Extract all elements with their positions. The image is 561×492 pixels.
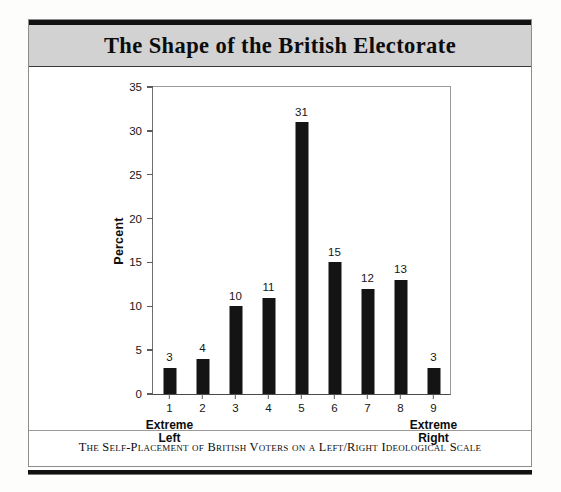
x-axis-tick-mark [334, 394, 335, 399]
figure-caption: The Self-Placement of British Voters on … [29, 440, 531, 455]
y-axis-tick: 25 [120, 169, 153, 181]
x-axis-tick: 5 [298, 394, 304, 414]
x-axis-tick: 1 [166, 394, 172, 414]
x-axis-tick-label: 8 [397, 402, 403, 414]
bar: 4 [196, 343, 209, 394]
y-axis-tick-mark [147, 349, 153, 350]
x-axis-tick: 9 [430, 394, 436, 414]
x-axis-tick-label: 3 [232, 402, 238, 414]
y-axis-tick-label: 0 [120, 388, 142, 400]
y-axis-tick-mark [147, 218, 153, 219]
x-axis-tick-label: 6 [331, 402, 337, 414]
bar-rect [394, 280, 407, 394]
x-axis-tick: 4 [265, 394, 271, 414]
x-axis-tick-mark [169, 394, 170, 399]
x-axis-tick-mark [367, 394, 368, 399]
y-axis-tick: 0 [120, 388, 153, 400]
caption-divider [29, 430, 531, 431]
x-axis-tick-label: 7 [364, 402, 370, 414]
y-axis-tick: 30 [120, 125, 153, 137]
y-axis-tick: 10 [120, 300, 153, 312]
bar: 31 [295, 107, 308, 394]
figure-frame: The Shape of the British Electorate Perc… [28, 19, 532, 467]
x-axis-tick-mark [301, 394, 302, 399]
bar-rect [361, 289, 374, 394]
y-axis-tick-mark [147, 306, 153, 307]
y-axis-tick: 5 [120, 344, 153, 356]
page-title: The Shape of the British Electorate [104, 33, 456, 59]
bar-value-label: 12 [361, 273, 374, 285]
bar: 11 [262, 282, 275, 394]
y-axis-tick: 35 [120, 81, 153, 93]
bottom-rule [28, 470, 532, 475]
x-axis-tick: 2 [199, 394, 205, 414]
bar: 13 [394, 264, 407, 394]
x-axis-tick-mark [268, 394, 269, 399]
y-axis-tick-label: 30 [120, 125, 142, 137]
x-axis-tick-label: 1 [166, 402, 172, 414]
x-axis-tick-label: 2 [199, 402, 205, 414]
bar-rect [163, 368, 176, 394]
bar-value-label: 3 [430, 352, 436, 364]
bar-value-label: 3 [166, 352, 172, 364]
x-axis-tick-mark [400, 394, 401, 399]
bar-value-label: 13 [394, 264, 407, 276]
bar-value-label: 11 [263, 282, 275, 294]
y-axis-tick-label: 35 [120, 81, 142, 93]
bar: 10 [229, 291, 242, 394]
y-axis-tick-mark [147, 86, 153, 87]
y-axis-tick: 15 [120, 256, 153, 268]
x-axis-tick-mark [433, 394, 434, 399]
x-axis-tick-mark [235, 394, 236, 399]
bar-value-label: 31 [295, 107, 308, 119]
chart-area: Percent 05101520253035 341011311512133 1… [29, 67, 531, 466]
x-axis-tick: 8 [397, 394, 403, 414]
bar-value-label: 15 [328, 247, 341, 259]
y-axis-tick-mark [147, 393, 153, 394]
bar: 12 [361, 273, 374, 394]
x-axis-tick: 7 [364, 394, 370, 414]
y-axis-tick-mark [147, 130, 153, 131]
bar-rect [427, 368, 440, 394]
bar-value-label: 4 [199, 343, 205, 355]
bar: 15 [328, 247, 341, 394]
bar-rect [262, 298, 275, 394]
y-axis-tick-label: 25 [120, 169, 142, 181]
bar-rect [229, 306, 242, 394]
x-axis-tick-label: 5 [298, 402, 304, 414]
bar-rect [295, 122, 308, 394]
y-axis-tick-label: 15 [120, 256, 142, 268]
bar-rect [328, 262, 341, 394]
bar: 3 [163, 352, 176, 394]
y-axis-tick-label: 20 [120, 213, 142, 225]
bar-value-label: 10 [229, 291, 242, 303]
x-axis-tick-mark [202, 394, 203, 399]
y-axis-tick: 20 [120, 213, 153, 225]
y-axis-tick-mark [147, 174, 153, 175]
plot-area: Percent 05101520253035 341011311512133 1… [152, 86, 451, 395]
x-axis-tick-label: 9 [430, 402, 436, 414]
bar: 3 [427, 352, 440, 394]
bar-rect [196, 359, 209, 394]
x-axis-tick: 6 [331, 394, 337, 414]
y-axis-tick-label: 5 [120, 344, 142, 356]
y-axis-tick-label: 10 [120, 300, 142, 312]
y-axis-tick-mark [147, 262, 153, 263]
x-axis-tick: 3 [232, 394, 238, 414]
x-axis-tick-label: 4 [265, 402, 271, 414]
figure-title-banner: The Shape of the British Electorate [29, 20, 531, 67]
